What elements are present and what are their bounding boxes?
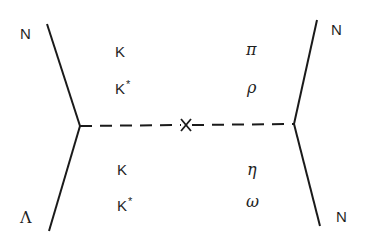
label-lower-kstar: K*: [117, 196, 132, 213]
top-right-nucleon-line: [294, 20, 317, 124]
label-bottom-right-n: N: [336, 209, 347, 224]
particle-k: K: [115, 43, 125, 60]
bottom-left-lambda-line: [49, 126, 80, 231]
label-pi: π: [246, 42, 257, 58]
top-left-nucleon-line: [47, 24, 80, 126]
cross-mark-icon: [181, 119, 191, 131]
exchange-propagator-left: [80, 125, 181, 126]
label-eta: η: [247, 162, 257, 178]
star-superscript: *: [128, 195, 132, 207]
label-upper-kstar: K*: [115, 79, 130, 96]
label-lower-k: K: [117, 162, 127, 177]
label-rho: ρ: [247, 80, 256, 96]
label-omega: ω: [246, 194, 259, 210]
label-top-left-n: N: [20, 26, 31, 41]
exchange-propagator-right: [192, 124, 294, 125]
exchange-diagram: [0, 0, 372, 242]
label-top-right-n: N: [331, 22, 342, 37]
particle-k: K: [115, 80, 125, 97]
particle-k: K: [117, 161, 127, 178]
star-superscript: *: [126, 78, 130, 90]
particle-k: K: [117, 197, 127, 214]
label-upper-k: K: [115, 44, 125, 59]
bottom-right-nucleon-line: [294, 124, 320, 226]
label-bottom-left-lambda: Λ: [20, 210, 32, 226]
